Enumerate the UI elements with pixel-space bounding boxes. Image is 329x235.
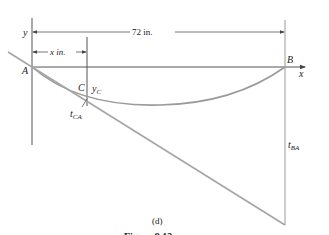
tangent-line-at-a [8, 52, 285, 225]
beam-deflection-diagram: y x A B C 72 in. x in. yC tCA tBA (d) Fi… [0, 0, 329, 235]
y-c-label: yC [91, 83, 101, 96]
figure-caption: Figure 9.13 [124, 231, 172, 235]
point-c-label: C [78, 82, 85, 93]
dim-x-label: x in. [49, 47, 66, 57]
elastic-curve [32, 67, 285, 105]
point-b-label: B [287, 54, 293, 65]
t-ba-label: tBA [288, 139, 300, 152]
t-ca-label: tCA [70, 108, 82, 121]
panel-label: (d) [152, 216, 163, 226]
dim-72-label: 72 in. [132, 27, 153, 37]
point-a-label: A [21, 65, 29, 76]
x-axis-label: x [298, 68, 304, 79]
y-axis-label: y [22, 27, 28, 38]
